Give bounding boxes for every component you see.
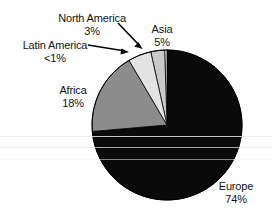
slice-label-europe-value: 74%: [208, 193, 264, 206]
slice-label-asia-value: 5%: [140, 36, 184, 49]
slice-label-europe-name: Europe: [208, 180, 264, 193]
slice-label-latin-america-name: Latin America: [5, 39, 105, 52]
slice-label-asia: Asia 5%: [140, 23, 184, 48]
slice-label-latin-america-value: <1%: [5, 52, 105, 65]
slice-label-north-america-value: 3%: [41, 25, 143, 38]
slice-label-africa: Africa 18%: [48, 84, 98, 109]
slice-label-asia-name: Asia: [140, 23, 184, 36]
pie-chart-figure: North America 3% Latin America <1% Asia …: [0, 0, 272, 217]
slice-label-africa-name: Africa: [48, 84, 98, 97]
slice-label-africa-value: 18%: [48, 97, 98, 110]
slice-label-north-america: North America 3%: [41, 12, 143, 37]
slice-label-europe: Europe 74%: [208, 180, 264, 205]
slice-label-north-america-name: North America: [41, 12, 143, 25]
slice-label-latin-america: Latin America <1%: [5, 39, 105, 64]
